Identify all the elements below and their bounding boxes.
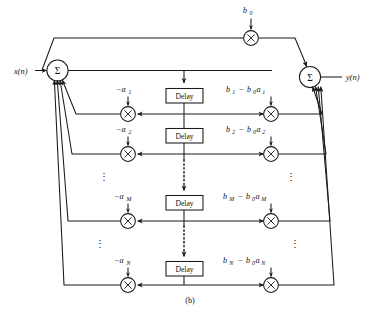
coef-b2-b-subscript: 2 [232, 129, 235, 135]
vertical-ellipsis-right-lower: ⋮ [290, 238, 300, 249]
figure-caption: (b) [185, 296, 195, 305]
coef-bN-b-label: b [223, 256, 227, 265]
vertical-ellipsis-left-upper: ⋮ [99, 171, 109, 182]
coef-bN-b0-label: b [246, 256, 250, 265]
input-signal-group: x(n) [13, 67, 47, 76]
multiplier-a1 [121, 107, 136, 122]
coef-bM-op: − [238, 192, 244, 201]
input-label: x(n) [13, 67, 28, 76]
coef-b2-a-subscript: 2 [262, 129, 265, 135]
coef-aM-subscript: M [126, 196, 133, 202]
coef-aN-subscript: N [126, 260, 132, 266]
signal-flow-diagram: b 0 x(n) Σ Σ y(n) Delay D [0, 0, 381, 318]
multiplier-bN [264, 278, 279, 293]
multiplier-aN [121, 278, 136, 293]
coef-b1-op: − [239, 85, 245, 94]
summer-left: Σ [47, 60, 68, 81]
gain-b0-subscript: 0 [250, 10, 253, 16]
coef-b1-b-label: b [226, 85, 230, 94]
delay-box-3-label: Delay [175, 199, 193, 208]
coef-aN-label: −a [114, 256, 124, 265]
coef-b2-op: − [239, 125, 245, 134]
delay-box-4-label: Delay [175, 265, 193, 274]
coef-bN-a-subscript: N [260, 260, 266, 266]
coef-bM-b-label: b [223, 192, 227, 201]
coef-a2-label: −a [116, 125, 126, 134]
top-feedforward-rail [42, 38, 307, 70]
delay-box-2-label: Delay [175, 132, 193, 141]
ellipsis-group-lower: ⋮ ⋮ [95, 238, 300, 249]
multiplier-aM [121, 214, 136, 229]
forward-rail-top [68, 71, 272, 84]
coef-b2-b0-label: b [247, 125, 251, 134]
coef-a2-subscript: 2 [129, 129, 132, 135]
coef-bN-b-subscript: N [228, 260, 234, 266]
vertical-ellipsis-left-lower: ⋮ [95, 238, 105, 249]
coef-aM-label: −a [114, 192, 124, 201]
multiplier-a2 [121, 147, 136, 162]
ellipsis-group-upper: ⋮ ⋮ [99, 171, 296, 182]
coef-bN-op: − [238, 256, 244, 265]
multiplier-b2 [264, 147, 279, 162]
summer-left-symbol: Σ [55, 65, 61, 76]
coef-bM-b0-label: b [246, 192, 250, 201]
coef-bM-a-label: a [256, 192, 260, 201]
coef-b1-b0-label: b [247, 85, 251, 94]
figure-canvas: b 0 x(n) Σ Σ y(n) Delay D [0, 0, 381, 318]
coef-a1-subscript: 1 [129, 89, 132, 95]
delay-box-1-label: Delay [175, 92, 193, 101]
coef-b1-a-label: a [257, 85, 261, 94]
multiplier-b1 [264, 107, 279, 122]
output-signal-group: y(n) [321, 73, 360, 82]
coef-bM-b-subscript: M [228, 196, 235, 202]
summer-right: Σ [299, 66, 320, 87]
summer-right-symbol: Σ [307, 72, 313, 83]
coef-b1-b-subscript: 1 [232, 89, 235, 95]
coef-b2-a-label: a [257, 125, 261, 134]
coef-bN-a-label: a [256, 256, 260, 265]
gain-b0-group: b 0 [243, 6, 253, 30]
tap-row-4: −a N b N − b 0 a N [54, 80, 334, 292]
coef-b1-a-subscript: 1 [262, 89, 265, 95]
coef-bM-a-subscript: M [260, 196, 267, 202]
vertical-ellipsis-right-upper: ⋮ [286, 171, 296, 182]
output-label: y(n) [345, 73, 360, 82]
delay-spine: Delay Delay Delay Delay [166, 89, 203, 286]
multiplier-b0 [244, 31, 259, 46]
gain-b0-label: b [243, 6, 247, 15]
coef-b2-b-label: b [226, 125, 230, 134]
multiplier-bM [264, 214, 279, 229]
coef-a1-label: −a [116, 85, 126, 94]
